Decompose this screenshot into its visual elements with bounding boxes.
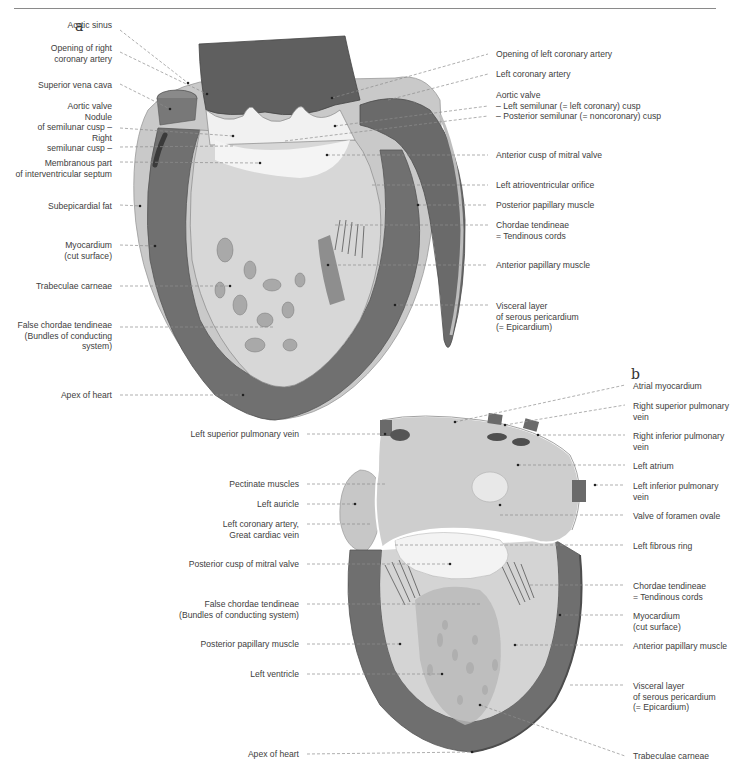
label-left-coronary-great-cardiac-vein: Left coronary artery, Great cardiac vein (223, 519, 299, 540)
heart-a-illustration (134, 36, 465, 420)
label-aortic-sinus: Aortic sinus (68, 20, 112, 31)
label-opening-left-coronary-artery: Opening of left coronary artery (496, 49, 612, 60)
label-left-fibrous-ring: Left fibrous ring (633, 541, 692, 552)
label-posterior-cusp-mitral: Posterior cusp of mitral valve (189, 559, 299, 570)
label-left-inferior-pulmonary-vein: Left inferior pulmonary vein (633, 481, 719, 502)
label-pectinate-muscles: Pectinate muscles (229, 479, 299, 490)
label-left-auricle: Left auricle (257, 499, 299, 510)
label-subepicardial-fat: Subepicardial fat (48, 201, 112, 212)
label-chordae-tendineae-b: Chordae tendineae = Tendinous cords (633, 581, 706, 602)
label-trabeculae-carneae-a: Trabeculae carneae (36, 281, 112, 292)
label-superior-vena-cava: Superior vena cava (38, 80, 112, 91)
label-left-atrium: Left atrium (633, 461, 674, 472)
label-apex-b: Apex of heart (248, 749, 299, 760)
label-myocardium-b: Myocardium (cut surface) (633, 611, 681, 632)
label-opening-right-coronary-artery: Opening of right coronary artery (51, 43, 112, 64)
label-apex-a: Apex of heart (61, 390, 112, 401)
label-chordae-tendineae-a: Chordae tendineae = Tendinous cords (496, 220, 569, 241)
label-visceral-pericardium-a: Visceral layer of serous pericardium (= … (496, 301, 579, 333)
label-false-chordae-a: False chordae tendineae (Bundles of cond… (17, 320, 112, 352)
label-false-chordae-b: False chordae tendineae (Bundles of cond… (179, 599, 299, 620)
label-left-superior-pulmonary-vein: Left superior pulmonary vein (191, 429, 299, 440)
label-membranous-septum: Membranous part of interventricular sept… (16, 158, 112, 179)
label-trabeculae-carneae-b: Trabeculae carneae (633, 751, 709, 762)
label-myocardium-a: Myocardium (cut surface) (64, 240, 112, 261)
label-valve-foramen-ovale: Valve of foramen ovale (633, 511, 720, 522)
label-left-av-orifice: Left atrioventricular orifice (496, 180, 594, 191)
label-aortic-valve-right-cusp: Aortic valve Nodule of semilunar cusp – … (37, 101, 112, 154)
label-atrial-myocardium: Atrial myocardium (633, 381, 702, 392)
label-posterior-papillary-b: Posterior papillary muscle (201, 639, 299, 650)
label-anterior-papillary-a: Anterior papillary muscle (496, 260, 590, 271)
label-anterior-cusp-mitral: Anterior cusp of mitral valve (496, 150, 602, 161)
label-posterior-papillary-a: Posterior papillary muscle (496, 200, 594, 211)
label-right-superior-pulmonary-vein: Right superior pulmonary vein (633, 401, 729, 422)
heart-b-illustration (340, 413, 586, 752)
label-left-ventricle: Left ventricle (250, 669, 299, 680)
label-visceral-pericardium-b: Visceral layer of serous pericardium (= … (633, 681, 716, 713)
label-anterior-papillary-b: Anterior papillary muscle (633, 641, 727, 652)
label-left-coronary-artery: Left coronary artery (496, 69, 571, 80)
label-aortic-valve-left-posterior: Aortic valve – Left semilunar (= left co… (496, 90, 661, 122)
label-right-inferior-pulmonary-vein: Right inferior pulmonary vein (633, 431, 724, 452)
